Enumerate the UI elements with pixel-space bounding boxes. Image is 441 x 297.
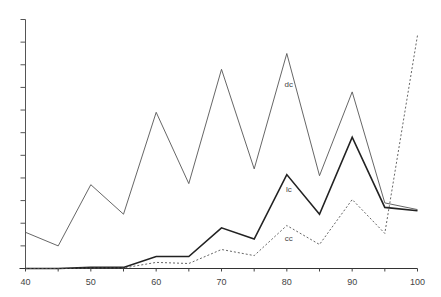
series-label-lc: lc <box>286 185 292 194</box>
x-tick-label: 40 <box>20 277 30 287</box>
series-labels: dclccc <box>285 80 293 243</box>
axes: 405060708090100 <box>20 20 426 287</box>
x-tick-label: 70 <box>216 277 226 287</box>
line-chart: 405060708090100 dclccc <box>0 0 441 297</box>
x-tick-label: 50 <box>86 277 96 287</box>
x-tick-label: 90 <box>347 277 357 287</box>
x-tick-label: 80 <box>282 277 292 287</box>
series-lc-line <box>26 137 418 268</box>
series-label-cc: cc <box>285 234 293 243</box>
x-tick-label: 100 <box>410 277 425 287</box>
series-group <box>26 35 418 268</box>
x-tick-label: 60 <box>151 277 161 287</box>
series-label-dc: dc <box>285 80 293 89</box>
